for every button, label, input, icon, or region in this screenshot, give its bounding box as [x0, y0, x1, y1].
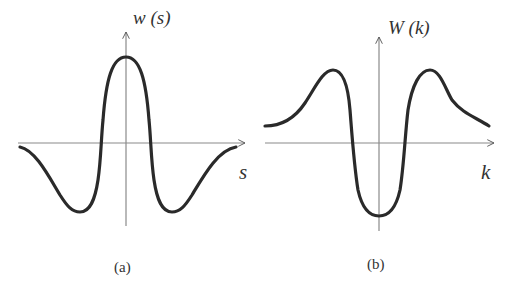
- caption-b: (b): [367, 256, 385, 273]
- curve-w-s: [20, 57, 236, 212]
- panel-a: w (s) s (a): [18, 7, 247, 276]
- y-axis-label-a: w (s): [133, 7, 170, 29]
- caption-a: (a): [114, 259, 131, 276]
- x-axis-label-a: s: [239, 160, 247, 184]
- x-axis-label-b: k: [481, 160, 491, 184]
- y-axis-label-b: W (k): [388, 17, 430, 39]
- panel-b: W (k) k (b): [265, 17, 494, 273]
- figure-canvas: w (s) s (a) W (k) k (b): [0, 0, 505, 281]
